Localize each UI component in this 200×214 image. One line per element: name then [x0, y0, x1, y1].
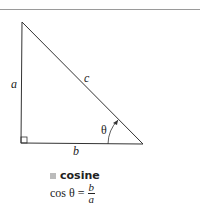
label-a: a	[11, 77, 17, 91]
label-b: b	[73, 144, 79, 158]
right-triangle-diagram: a c θ b	[0, 0, 200, 214]
bullet-square-icon	[50, 173, 56, 179]
right-angle-marker	[21, 137, 27, 143]
formula-left: cos θ =	[50, 186, 85, 201]
arc-arrow-icon	[113, 120, 118, 125]
triangle	[21, 22, 143, 144]
caption: cosine cos θ = b a	[50, 170, 100, 204]
fraction: b a	[88, 183, 96, 204]
cosine-formula: cos θ = b a	[50, 183, 100, 204]
label-c: c	[84, 71, 90, 85]
denominator: a	[89, 194, 95, 204]
label-theta: θ	[101, 123, 107, 137]
